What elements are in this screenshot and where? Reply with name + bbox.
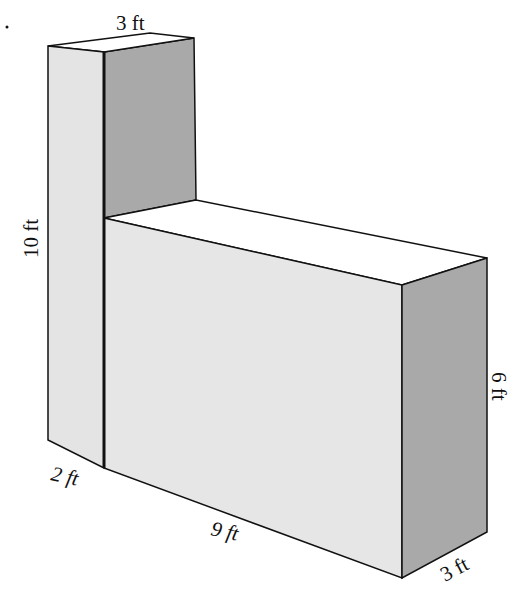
low-box-side-face xyxy=(402,258,487,578)
label-low-length: 9 ft xyxy=(209,516,242,545)
dot-mark xyxy=(6,26,9,29)
tall-box-front-face xyxy=(48,46,104,468)
tall-box-side-face xyxy=(104,38,196,218)
composite-prism-diagram: 3 ft 10 ft 2 ft 9 ft 6 ft 3 ft xyxy=(0,0,515,590)
label-tall-depth: 2 ft xyxy=(49,461,82,490)
label-low-height: 6 ft xyxy=(487,372,511,401)
label-tall-top-width: 3 ft xyxy=(116,11,145,35)
label-tall-height: 10 ft xyxy=(19,219,43,258)
